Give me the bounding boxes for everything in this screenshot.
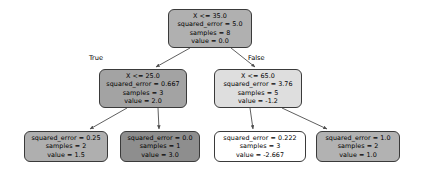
edge-root-to-left <box>156 48 190 67</box>
tree-node-leaf4: squared_error = 1.0 samples = 2 value = … <box>316 131 400 162</box>
node-value: value = 1.0 <box>339 151 377 159</box>
node-samples: samples = 3 <box>240 142 281 150</box>
tree-node-root: X <= 35.0 squared_error = 5.0 samples = … <box>168 9 252 48</box>
node-error: squared_error = 0.25 <box>31 134 100 142</box>
tree-node-leaf1: squared_error = 0.25 samples = 2 value =… <box>24 131 108 162</box>
node-condition: X <= 65.0 <box>241 72 275 80</box>
node-condition: X <= 35.0 <box>193 12 227 20</box>
node-samples: samples = 2 <box>46 142 87 150</box>
tree-node-right: X <= 65.0 squared_error = 3.76 samples =… <box>214 69 302 108</box>
node-value: value = 2.0 <box>124 97 162 105</box>
node-error: squared_error = 1.0 <box>325 134 390 142</box>
node-value: value = 0.0 <box>191 37 229 45</box>
edge-right-to-leaf4 <box>282 108 327 129</box>
tree-node-leaf2: squared_error = 0.0 samples = 1 value = … <box>120 131 200 162</box>
node-samples: samples = 3 <box>123 89 164 97</box>
edge-right-to-leaf3 <box>250 108 253 129</box>
edge-label-false: False <box>248 54 265 62</box>
node-value: value = 1.5 <box>47 151 85 159</box>
node-value: value = 3.0 <box>141 151 179 159</box>
node-error: squared_error = 0.222 <box>223 134 296 142</box>
tree-node-leaf3: squared_error = 0.222 samples = 3 value … <box>214 131 306 162</box>
node-value: value = -2.667 <box>236 151 284 159</box>
node-error: squared_error = 0.667 <box>106 80 179 88</box>
edge-left-to-leaf1 <box>90 108 127 129</box>
node-error: squared_error = 5.0 <box>177 20 242 28</box>
node-value: value = -1.2 <box>238 97 278 105</box>
edge-label-true: True <box>89 54 103 62</box>
node-error: squared_error = 0.0 <box>127 134 192 142</box>
node-samples: samples = 2 <box>338 142 379 150</box>
node-samples: samples = 8 <box>190 29 231 37</box>
node-samples: samples = 1 <box>140 142 181 150</box>
node-samples: samples = 5 <box>238 89 279 97</box>
tree-node-left: X <= 25.0 squared_error = 0.667 samples … <box>99 69 187 108</box>
edge-left-to-leaf2 <box>158 108 159 129</box>
node-condition: X <= 25.0 <box>126 72 160 80</box>
decision-tree-figure: True False X <= 35.0 squared_error = 5.0… <box>0 0 422 178</box>
node-error: squared_error = 3.76 <box>223 80 292 88</box>
